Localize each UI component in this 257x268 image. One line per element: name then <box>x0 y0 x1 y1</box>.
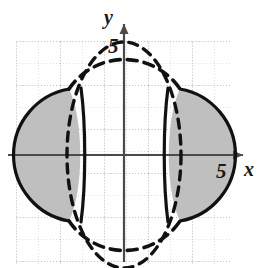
graph-figure: y x 5 5 <box>0 0 257 268</box>
y-tick-label-5: 5 <box>108 34 119 58</box>
x-axis-label: x <box>243 158 254 180</box>
coordinate-plane: y x 5 5 <box>0 0 257 268</box>
y-axis-label: y <box>102 6 113 29</box>
x-tick-label-5: 5 <box>216 159 227 183</box>
